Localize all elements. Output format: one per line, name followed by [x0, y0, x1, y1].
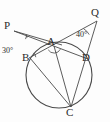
angle-arc-a [48, 49, 60, 53]
angle-dot-p [26, 36, 28, 38]
point-label-q: Q [91, 7, 99, 18]
point-label-p: P [4, 20, 10, 31]
segment-a-c [54, 46, 71, 107]
point-label-b: B [22, 52, 29, 63]
geometry-diagram-canvas [0, 0, 110, 122]
angle-measure-p: 30° [2, 47, 13, 55]
angle-measure-q: 40° [76, 31, 87, 39]
segment-b-c [30, 58, 71, 107]
geometry-figure: P Q A B D C 30° 40° [0, 0, 110, 122]
point-label-c: C [66, 107, 73, 118]
point-label-d: D [82, 52, 90, 63]
point-label-a: A [47, 36, 55, 47]
